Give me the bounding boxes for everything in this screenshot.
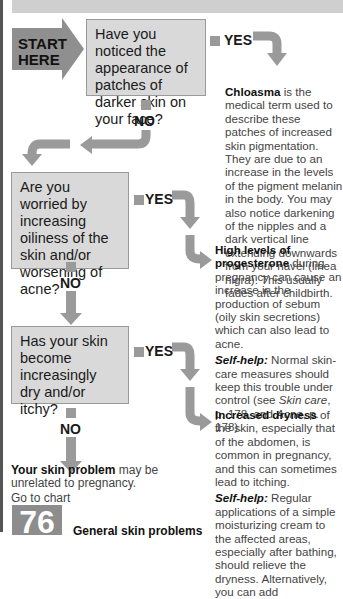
question-2-box: Are you worried by increasing oiliness o… (11, 172, 129, 269)
no-marker-2 (66, 262, 76, 272)
no-marker-1 (141, 100, 151, 110)
no-arrow-1-icon (20, 128, 160, 168)
self-help-3: Self-help: Regular applications of a sim… (215, 491, 343, 598)
answer-progesterone: High levels of progesterone during pregn… (215, 243, 343, 434)
skin-care-ref: Skin care (279, 393, 327, 406)
fallback-bold: Your skin problem (11, 463, 115, 477)
self-help-2-label: Self-help: (215, 353, 268, 366)
yes-marker-1 (210, 36, 220, 46)
yes-arrow-1-icon (253, 34, 289, 70)
yes-arrow-3-icon (172, 345, 212, 435)
chart-number-badge[interactable]: 76 (12, 505, 62, 535)
yes-label-3: YES (145, 343, 173, 359)
question-1-box: Have you noticed the appearance of patch… (86, 19, 206, 96)
header-bar (12, 0, 343, 13)
self-help-3-label: Self-help: (215, 491, 268, 504)
yes-label-1: YES (224, 32, 252, 48)
yes-marker-3 (134, 347, 144, 357)
no-label-2: NO (60, 275, 81, 291)
question-1-text: Have you noticed the appearance of patch… (95, 26, 188, 127)
start-label-line1: START (18, 36, 67, 52)
answer-2-text: during pregnancy can cause an increase i… (215, 256, 341, 349)
start-here-label: START HERE (18, 36, 67, 68)
fallback-text: Your skin problem may be unrelated to pr… (11, 464, 211, 491)
start-label-line2: HERE (18, 52, 67, 68)
question-3-text: Has your skin become increasingly dry an… (20, 333, 108, 417)
yes-marker-2 (134, 195, 144, 205)
answer-2-bold: High levels of progesterone (215, 243, 290, 269)
no-arrow-2-icon (60, 291, 84, 327)
yes-label-2: YES (145, 191, 173, 207)
answer-dryness: Increased dryness of the skin, especiall… (215, 408, 343, 599)
question-3-box: Has your skin become increasingly dry an… (11, 326, 129, 404)
chart-title-link[interactable]: General skin problems (73, 525, 202, 538)
no-label-3: NO (60, 421, 81, 437)
answer-1-bold: Chloasma (225, 85, 280, 98)
page-edge-rule (0, 0, 3, 532)
self-help-3-text: Regular applications of a simple moistur… (215, 491, 337, 598)
no-marker-3 (66, 408, 76, 418)
yes-arrow-2-icon (172, 193, 212, 273)
no-label-1: NO (134, 113, 155, 129)
answer-3-bold: Increased dryness (215, 408, 317, 421)
